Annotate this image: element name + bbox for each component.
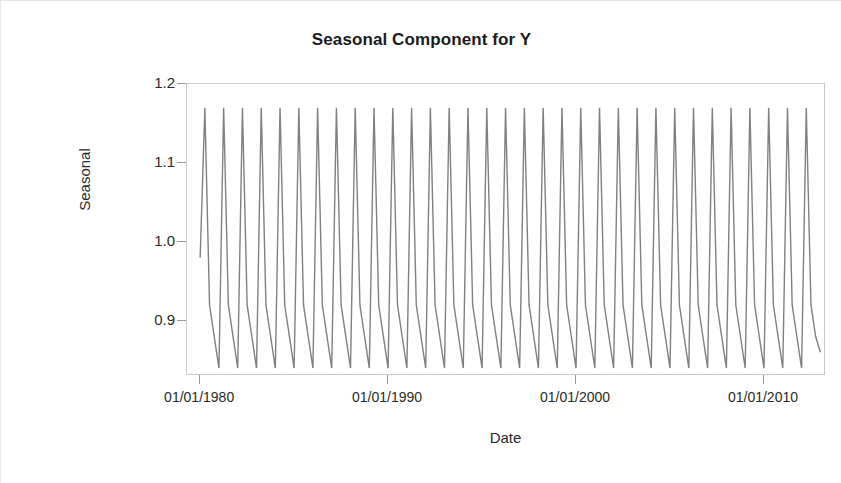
x-axis-tick-label: 01/01/1980: [134, 389, 264, 405]
y-axis-tick-label: 1.0: [129, 233, 175, 248]
x-axis-tick-label: 01/01/2000: [510, 389, 640, 405]
x-axis-tick-mark: [387, 375, 388, 384]
x-axis-tick-label: 01/01/2010: [698, 389, 828, 405]
seasonal-line: [200, 108, 820, 368]
y-axis-tick-label: 1.1: [129, 154, 175, 169]
y-axis-title: Seasonal: [76, 95, 93, 265]
x-axis-tick-mark: [763, 375, 764, 384]
y-axis-tick-mark: [177, 241, 186, 242]
y-axis-tick-mark: [177, 162, 186, 163]
x-axis-tick-label: 01/01/1990: [322, 389, 452, 405]
y-axis-tick-label: 0.9: [129, 312, 175, 327]
x-axis-tick-mark: [199, 375, 200, 384]
x-axis-tick-mark: [575, 375, 576, 384]
y-axis-tick-mark: [177, 83, 186, 84]
y-axis-tick-mark: [177, 320, 186, 321]
x-axis-title: Date: [186, 429, 825, 446]
plot-area: [186, 83, 825, 375]
chart-figure: Seasonal Component for Y Seasonal 1.21.1…: [0, 0, 841, 483]
y-axis-tick-label: 1.2: [129, 75, 175, 90]
seasonal-series-svg: [187, 84, 826, 376]
y-axis-tick-labels: 1.21.11.00.9: [123, 1, 175, 483]
